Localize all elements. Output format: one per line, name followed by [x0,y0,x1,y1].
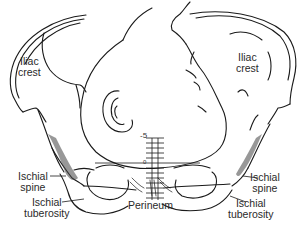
station-zero: 0 [143,159,146,165]
label-ischial-spine-left: Ischial spine [18,171,48,193]
right-ilium [190,12,296,168]
left-ilium [10,15,86,172]
label-ischial-tuberosity-left: Ischial tuberosity [24,197,70,219]
label-ischial-spine-right: Ischial spine [250,172,280,194]
left-ischial-spine-shade [48,134,78,180]
label-iliac-crest-left: Iliac crest [18,56,41,78]
right-ischial-spine-shade [236,134,262,176]
label-ischial-tuberosity-right: Ischial tuberosity [228,198,274,220]
fetal-head [81,2,227,168]
label-perineum: Perineum [128,200,173,211]
label-iliac-crest-right: Iliac crest [236,52,259,74]
station-minus-5: -5 [140,131,147,140]
